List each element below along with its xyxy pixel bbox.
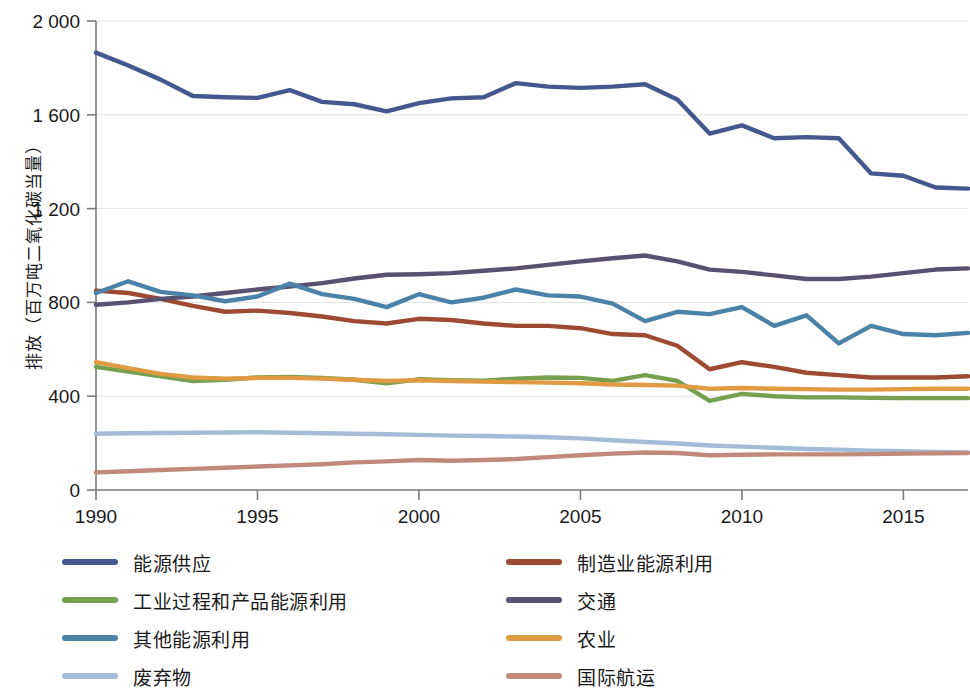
legend-color-swatch [62,597,118,603]
y-axis-ticks: 04008001 2001 6002 000 [32,11,96,501]
legend-item[interactable]: 制造业能源利用 [497,549,970,576]
series-line [96,432,968,452]
legend-color-swatch [62,559,118,565]
chart-legend: 能源供应制造业能源利用工业过程和产品能源利用交通其他能源利用农业废弃物国际航运 [0,543,970,694]
x-tick-label: 1995 [236,506,278,527]
legend-label: 国际航运 [577,663,655,690]
legend-item[interactable]: 农业 [497,625,970,652]
y-tick-label: 1 600 [32,105,80,126]
series-line [96,256,968,305]
x-tick-label: 2000 [398,506,440,527]
series-line [96,291,968,378]
legend-label: 交通 [577,587,616,614]
legend-color-swatch [506,559,562,565]
chart-page: 排放（百万吨二氧化碳当量） 04008001 2001 6002 000 199… [0,0,970,694]
y-tick-label: 800 [48,292,80,313]
legend-label: 工业过程和产品能源利用 [133,587,348,614]
y-tick-label: 400 [48,386,80,407]
legend-item[interactable]: 废弃物 [0,663,497,690]
y-tick-label: 1 200 [32,199,80,220]
x-axis-ticks: 199019952000200520102015 [75,490,925,527]
x-tick-label: 2005 [559,506,601,527]
legend-label: 能源供应 [133,549,211,576]
legend-color-swatch [506,673,562,679]
legend-color-swatch [506,597,562,603]
legend-color-swatch [62,673,118,679]
legend-color-swatch [506,635,562,641]
series-line [96,452,968,472]
legend-label: 其他能源利用 [133,625,250,652]
legend-item[interactable]: 工业过程和产品能源利用 [0,587,497,614]
legend-label: 农业 [577,625,616,652]
legend-color-swatch [62,635,118,641]
legend-label: 制造业能源利用 [577,549,714,576]
legend-item[interactable]: 能源供应 [0,549,497,576]
legend-item[interactable]: 国际航运 [497,663,970,690]
x-tick-label: 1990 [75,506,117,527]
line-chart: 04008001 2001 6002 000 19901995200020052… [0,0,970,543]
legend-item[interactable]: 交通 [497,587,970,614]
y-tick-label: 2 000 [32,11,80,32]
legend-label: 废弃物 [133,663,192,690]
series-line [96,53,968,189]
x-tick-label: 2015 [882,506,924,527]
y-tick-label: 0 [69,480,80,501]
x-tick-label: 2010 [721,506,763,527]
series-lines [96,53,968,473]
legend-item[interactable]: 其他能源利用 [0,625,497,652]
axis-lines [96,21,968,490]
